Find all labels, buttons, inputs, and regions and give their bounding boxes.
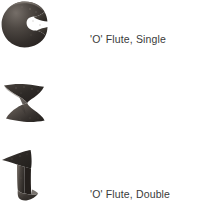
o-flute-double-profile-icon bbox=[0, 78, 70, 140]
o-flute-single-profile-icon bbox=[0, 0, 70, 62]
v-flute-double-profile-icon bbox=[0, 148, 70, 205]
flute-row: 'O' Flute, Single bbox=[0, 0, 203, 62]
profile-stem-shadow bbox=[24, 167, 31, 195]
profile-barb bbox=[2, 150, 32, 169]
o-flute-single-profile-cell bbox=[0, 0, 70, 62]
profile-stem bbox=[17, 164, 25, 193]
flute-row: 'V' Flute, Double bbox=[0, 148, 203, 205]
flute-row-label: 'O' Flute, Single bbox=[90, 33, 166, 45]
flute-profile-figure: 'O' Flute, Single bbox=[0, 0, 203, 205]
profile-foot-highlight bbox=[32, 189, 39, 194]
v-flute-double-profile-cell bbox=[0, 148, 70, 205]
o-flute-double-profile-cell bbox=[0, 78, 70, 140]
flute-row: 'O' Flute, Double bbox=[0, 78, 203, 140]
